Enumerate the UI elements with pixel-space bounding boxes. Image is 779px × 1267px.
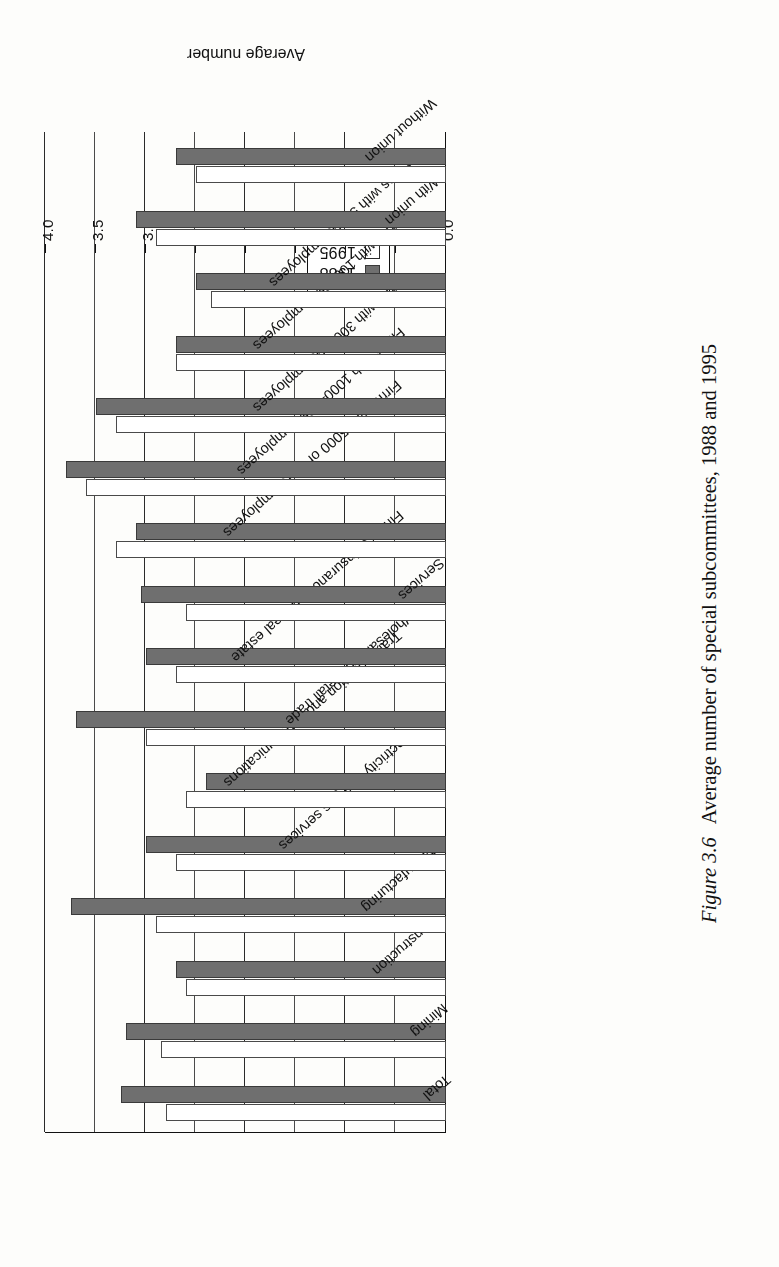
bar-group	[46, 821, 446, 884]
value-axis-title: Average number	[46, 45, 446, 63]
bar-group	[46, 383, 446, 446]
bar-1995	[146, 729, 446, 746]
bar-1995	[176, 854, 446, 871]
figure-caption: Figure 3.6Average number of special subc…	[649, 0, 769, 1267]
caption-figure-number: Figure 3.6	[698, 837, 720, 923]
bar-1995	[166, 1104, 446, 1121]
bar-1988	[126, 1023, 446, 1040]
bar-1995	[196, 166, 446, 183]
bar-1995	[186, 791, 446, 808]
bar-1988	[176, 336, 446, 353]
bar-1995	[156, 916, 446, 933]
bar-1988	[71, 898, 446, 915]
bar-group	[46, 258, 446, 321]
bar-1995	[211, 291, 446, 308]
gridline	[44, 132, 45, 1132]
bar-1995	[86, 479, 446, 496]
bar-group	[46, 696, 446, 759]
bar-group	[46, 571, 446, 634]
caption-text: Average number of special subcommittees,…	[698, 344, 720, 824]
bar-1995	[186, 604, 446, 621]
bar-1995	[176, 354, 446, 371]
bar-group	[46, 321, 446, 384]
bar-group	[46, 196, 446, 259]
bar-1995	[186, 979, 446, 996]
bar-1995	[116, 541, 446, 558]
bar-1995	[161, 1041, 446, 1058]
bar-1988	[146, 648, 446, 665]
figure-page: Average number 1988 1995 0.00.51.01.52.0…	[0, 0, 779, 1267]
chart-area: Average number 1988 1995 0.00.51.01.52.0…	[8, 18, 628, 1253]
bar-1995	[176, 666, 446, 683]
bar-group	[46, 1008, 446, 1071]
bar-1995	[156, 229, 446, 246]
bar-1988	[176, 961, 446, 978]
bar-1995	[116, 416, 446, 433]
bar-1988	[136, 523, 446, 540]
bar-group	[46, 1071, 446, 1134]
rotated-figure-container: Average number 1988 1995 0.00.51.01.52.0…	[8, 18, 628, 1253]
bar-1988	[76, 711, 446, 728]
bar-1988	[196, 273, 446, 290]
bar-1988	[121, 1086, 446, 1103]
bar-1988	[176, 148, 446, 165]
